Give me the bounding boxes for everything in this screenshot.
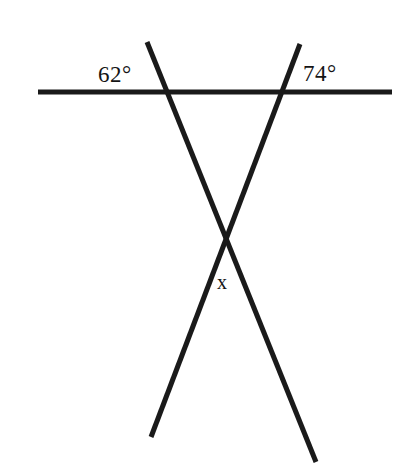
diagram-background — [0, 0, 417, 475]
angle-label-right: 74° — [303, 62, 337, 85]
angle-label-unknown-x: x — [217, 272, 227, 292]
geometry-canvas — [0, 0, 417, 475]
geometry-diagram: 62° 74° x — [0, 0, 417, 475]
angle-label-left: 62° — [98, 63, 132, 86]
